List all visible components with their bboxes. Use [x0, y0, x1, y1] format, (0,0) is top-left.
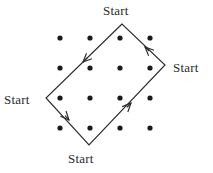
- start-label-right: Start: [173, 61, 199, 74]
- grid-dot: [57, 95, 62, 100]
- path-outline: [46, 24, 165, 145]
- grid-dot: [147, 95, 152, 100]
- grid-dot: [57, 65, 62, 70]
- grid-dot: [117, 65, 122, 70]
- start-label-bottom: Start: [68, 152, 94, 165]
- grid-dot: [87, 65, 92, 70]
- grid-dot: [87, 95, 92, 100]
- grid-dot: [147, 35, 152, 40]
- grid-dot: [117, 95, 122, 100]
- start-label-left: Start: [4, 93, 30, 106]
- closed-path: [46, 24, 165, 145]
- grid-dot: [117, 125, 122, 130]
- grid-dot: [147, 125, 152, 130]
- grid-dot: [57, 35, 62, 40]
- grid-dot: [147, 65, 152, 70]
- dot-grid: [57, 35, 152, 130]
- grid-dot: [117, 35, 122, 40]
- direction-arrowheads: [60, 47, 154, 120]
- start-label-top: Start: [103, 4, 129, 17]
- grid-dot: [87, 35, 92, 40]
- grid-dot: [57, 125, 62, 130]
- figure-container: Start Start Start Start: [0, 0, 213, 173]
- grid-dot: [87, 125, 92, 130]
- path-and-dot-grid-diagram: [0, 0, 213, 173]
